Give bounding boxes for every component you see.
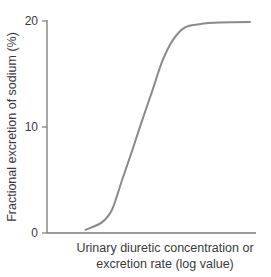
x-axis-label-line-1: Urinary diuretic concentration or: [60, 240, 270, 256]
x-axis-label-line-2: excretion rate (log value): [60, 256, 270, 272]
chart-canvas: [0, 0, 271, 277]
y-tick-label-20: 20: [14, 15, 38, 27]
dose-response-curve: [86, 22, 250, 230]
y-axis-label: Fractional excretion of sodium (%): [5, 32, 19, 222]
y-tick-label-0: 0: [14, 227, 38, 239]
x-axis-label: Urinary diuretic concentration or excret…: [60, 240, 270, 272]
